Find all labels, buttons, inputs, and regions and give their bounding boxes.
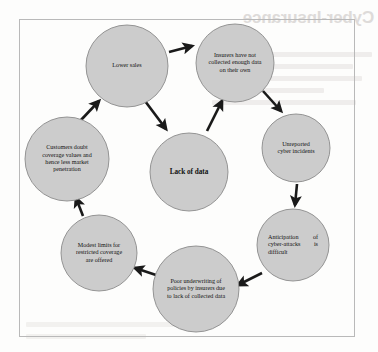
node-label-wrap-poor-underwriting: Poor underwriting of policies by insurer… (156, 249, 236, 329)
node-label-wrap-unreported-incidents: Unreported cyber incidents (265, 117, 327, 179)
arrow-customers-to-lower-sales (81, 101, 99, 120)
node-label-wrap-anticipation-difficult: Anticipation of cyber-attacks is difficu… (260, 212, 326, 278)
arrow-underwriting-to-modest-limits (135, 268, 156, 275)
node-label-lack-of-data: Lack of data (167, 168, 211, 177)
arrow-lower-sales-to-insurers (169, 46, 192, 52)
arrow-unreported-to-anticipation (295, 184, 297, 205)
node-label-wrap-insurers-not-collected: Insurers have not collected enough data … (200, 28, 270, 98)
node-label-wrap-lack-of-data: Lack of data (152, 135, 226, 209)
node-label-lower-sales: Lower sales (96, 62, 158, 69)
arrow-lack-of-data-to-insurers (207, 101, 222, 131)
node-label-wrap-modest-limits: Modest limits for restricted coverage ar… (64, 218, 134, 288)
arrow-anticipation-to-underwriting (238, 273, 262, 285)
node-label-insurers-not-collected: Insurers have not collected enough data … (207, 52, 263, 74)
node-label-unreported-incidents: Unreported cyber incidents (275, 141, 317, 156)
node-label-anticipation-difficult: Anticipation of cyber-attacks is difficu… (268, 234, 318, 256)
node-label-modest-limits: Modest limits for restricted coverage ar… (73, 242, 125, 264)
scanned-page: Cyber-Insurance (0, 0, 378, 352)
node-label-wrap-lower-sales: Lower sales (90, 29, 164, 103)
node-label-customers-doubt: Customers doubt coverage values and henc… (36, 144, 98, 174)
node-label-wrap-customers-doubt: Customers doubt coverage values and henc… (29, 121, 105, 197)
arrow-lower-sales-to-lack-of-data (145, 101, 166, 129)
arrow-modest-limits-to-customers (76, 198, 83, 216)
node-label-poor-underwriting: Poor underwriting of policies by insurer… (165, 278, 227, 300)
